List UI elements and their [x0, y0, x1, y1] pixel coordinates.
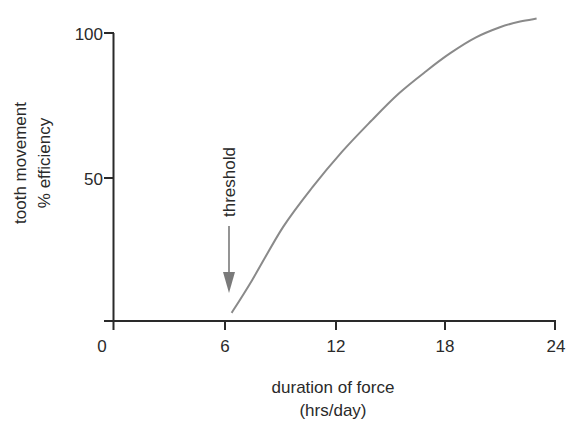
threshold-annotation: threshold	[220, 147, 239, 293]
x-axis-title: duration of force (hrs/day)	[272, 378, 395, 420]
y-tick-label-100: 100	[75, 25, 103, 44]
y-axis-title-line2: % efficiency	[35, 117, 54, 208]
x-tick-label-12: 12	[327, 337, 346, 356]
x-tick-labels: 0 6 12 18 24	[97, 337, 565, 356]
chart: 100 50 0 6 12 18 24 duration of force (h…	[0, 0, 575, 434]
threshold-arrow-head	[223, 272, 235, 293]
efficiency-curve	[232, 19, 537, 313]
x-tick-label-6: 6	[220, 337, 229, 356]
x-tick-label-0: 0	[97, 337, 106, 356]
threshold-label: threshold	[220, 147, 239, 217]
axes	[104, 33, 556, 330]
x-axis-title-line2: (hrs/day)	[299, 401, 366, 420]
y-tick-labels: 100 50	[75, 25, 103, 189]
y-axis-title-line1: tooth movement	[11, 102, 30, 224]
y-axis-title: tooth movement % efficiency	[11, 102, 54, 224]
x-tick-label-18: 18	[436, 337, 455, 356]
y-tick-label-50: 50	[84, 170, 103, 189]
x-axis-title-line1: duration of force	[272, 378, 395, 397]
x-tick-label-24: 24	[547, 337, 566, 356]
